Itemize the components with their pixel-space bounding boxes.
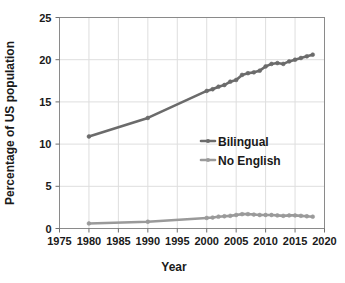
data-point [264,213,268,217]
data-point [87,222,91,226]
data-point [146,220,150,224]
x-tick-label: 1975 [47,235,71,247]
data-point [311,53,315,57]
data-point [275,214,279,218]
data-point [217,85,221,89]
x-tick-label: 2000 [194,235,218,247]
y-tick-label: 25 [39,12,51,24]
data-point [287,214,291,218]
x-axis-tick-labels: 1975198019851990199520002005201020152020 [47,235,336,247]
data-point [234,213,238,217]
data-point [240,212,244,216]
x-tick-label: 2005 [224,235,248,247]
y-tick-label: 10 [39,138,51,150]
data-point [87,135,91,139]
data-point [293,58,297,62]
series-line [89,55,313,137]
y-tick-label: 20 [39,54,51,66]
data-point [211,87,215,91]
data-series-layer [87,53,315,226]
data-point [311,215,315,219]
data-point [252,213,256,217]
legend-item-no-english[interactable]: No English [201,154,281,168]
y-axis-ticks [56,18,60,229]
data-point [258,213,262,217]
data-point [270,213,274,217]
y-tick-label: 0 [45,223,51,235]
data-point [146,116,150,120]
data-point [217,215,221,219]
legend-label: No English [218,154,281,168]
data-point [258,69,262,73]
x-tick-label: 2015 [283,235,307,247]
data-point [211,216,215,220]
x-tick-label: 1980 [77,235,101,247]
data-point [281,62,285,66]
chart-legend: BilingualNo English [201,135,281,168]
data-point [205,216,209,220]
data-point [252,70,256,74]
data-point [270,62,274,66]
data-point [281,214,285,218]
y-tick-label: 15 [39,96,51,108]
data-point [234,78,238,82]
chart-container: 1975198019851990199520002005201020152020… [0,0,345,283]
data-point [275,61,279,65]
data-point [228,80,232,84]
series-bilingual [87,53,315,139]
data-point [246,71,250,75]
y-tick-label: 5 [45,180,51,192]
data-point [264,65,268,69]
x-axis-ticks [60,229,325,233]
series-no-english [87,212,315,225]
data-point [293,214,297,218]
y-axis-title: Percentage of US population [3,41,17,205]
x-tick-label: 2020 [312,235,336,247]
x-tick-label: 1995 [165,235,189,247]
data-point [305,214,309,218]
data-point [287,59,291,63]
data-point [222,83,226,87]
data-point [305,54,309,58]
gridlines [60,18,325,229]
data-point [299,214,303,218]
legend-label: Bilingual [218,135,269,149]
legend-item-bilingual[interactable]: Bilingual [201,135,269,149]
x-tick-label: 1985 [106,235,130,247]
x-axis-title: Year [161,260,187,274]
data-point [228,214,232,218]
data-point [299,56,303,60]
data-point [205,89,209,93]
plot-frame [60,18,325,229]
legend-marker [206,139,210,143]
data-point [246,212,250,216]
data-point [240,73,244,77]
line-chart: 1975198019851990199520002005201020152020… [0,0,345,283]
x-tick-label: 1990 [136,235,160,247]
y-axis-tick-labels: 0510152025 [39,12,51,235]
data-point [222,214,226,218]
legend-marker [206,158,210,162]
x-tick-label: 2010 [253,235,277,247]
